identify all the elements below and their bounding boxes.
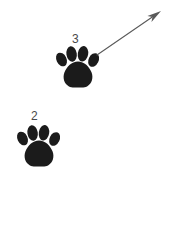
lower-paw-print: [15, 124, 62, 166]
upper-paw-print: [54, 45, 101, 87]
direction-arrow: [97, 8, 163, 55]
upper-paw-label: 3: [72, 33, 79, 45]
direction-arrow-shaft: [97, 17, 152, 55]
lower-paw-label: 2: [31, 110, 38, 122]
direction-arrow-head: [147, 8, 163, 22]
paw-trail-vector-layer: [0, 0, 191, 246]
figure-canvas: 3 2: [0, 0, 191, 246]
